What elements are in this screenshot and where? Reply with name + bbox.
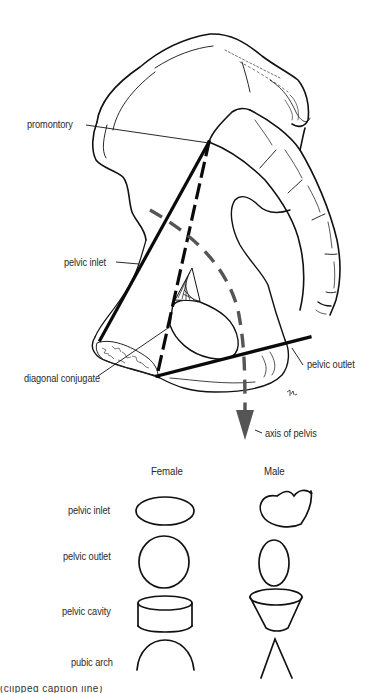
column-header-female: Female bbox=[151, 465, 183, 477]
pelvic-inlet-leader bbox=[116, 262, 139, 264]
signature-mark bbox=[287, 390, 297, 396]
male-outlet-shape bbox=[259, 540, 289, 586]
pelvic-outlet-line bbox=[157, 337, 310, 376]
promontory-leader bbox=[86, 125, 209, 143]
male-cavity-shape bbox=[250, 589, 302, 631]
label-pelvic-inlet: pelvic inlet bbox=[64, 256, 106, 268]
row-label-pelvic-inlet: pelvic inlet bbox=[68, 504, 110, 516]
female-inlet-shape bbox=[136, 497, 194, 525]
pelvic-outlet-leader bbox=[292, 348, 303, 365]
female-cavity-shape bbox=[138, 596, 192, 632]
row-label-pelvic-outlet: pelvic outlet bbox=[63, 550, 111, 562]
comparison-shapes bbox=[136, 490, 312, 678]
diagonal-conjugate-line bbox=[157, 142, 209, 376]
male-pubic-arch-shape bbox=[261, 639, 292, 678]
female-outlet-shape bbox=[139, 536, 189, 588]
axis-leader bbox=[255, 430, 262, 433]
axis-of-pelvis bbox=[150, 210, 254, 440]
female-pubic-arch-shape bbox=[137, 640, 194, 670]
label-promontory: promontory bbox=[27, 118, 73, 130]
column-header-male: Male bbox=[264, 465, 285, 477]
row-label-pubic-arch: pubic arch bbox=[71, 656, 113, 668]
figure-caption-clipped: (clipped caption line) bbox=[0, 686, 384, 693]
pelvis-diagram bbox=[0, 0, 384, 693]
row-label-pelvic-cavity: pelvic cavity bbox=[62, 605, 111, 617]
label-axis-of-pelvis: axis of pelvis bbox=[265, 427, 317, 439]
label-pelvic-outlet: pelvic outlet bbox=[307, 358, 355, 370]
ilium-outline bbox=[93, 34, 310, 240]
pelvic-lines bbox=[100, 142, 310, 376]
caption-text: (clipped caption line) bbox=[0, 686, 384, 693]
male-inlet-shape bbox=[260, 490, 312, 527]
label-diagonal-conjugate: diagonal conjugate bbox=[24, 372, 100, 384]
